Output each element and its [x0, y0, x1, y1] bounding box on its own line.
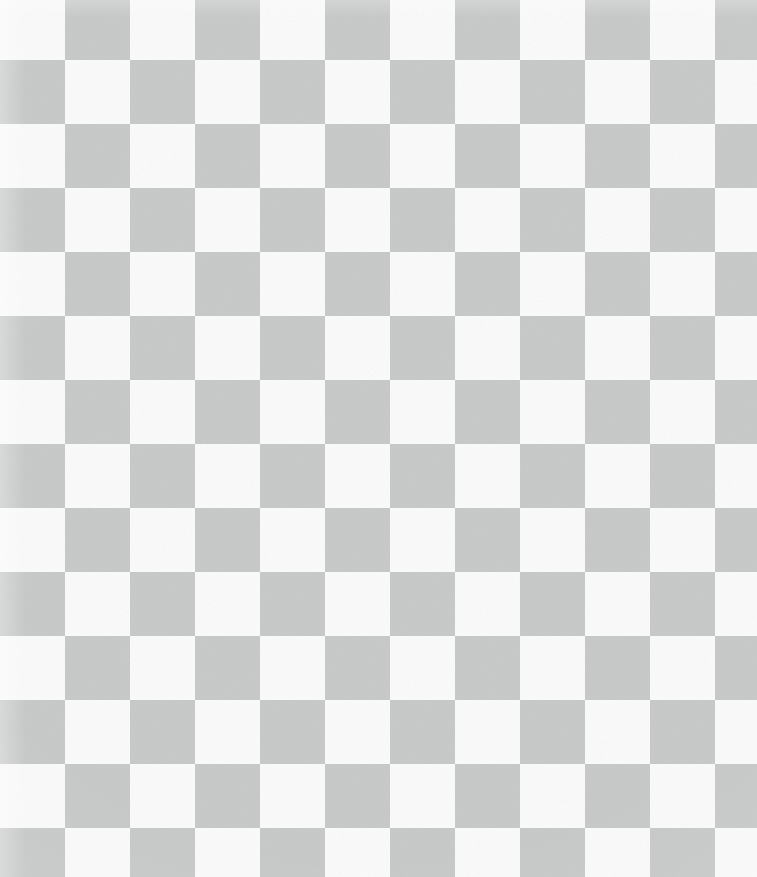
- checker-cell: [390, 444, 455, 508]
- checkerboard-canvas: [0, 0, 757, 877]
- checker-cell: [455, 380, 520, 444]
- checker-cell: [585, 508, 650, 572]
- checker-cell: [455, 636, 520, 700]
- checker-cell: [130, 700, 195, 764]
- checkerboard-pattern: [0, 0, 757, 877]
- checker-cell: [260, 188, 325, 252]
- checker-cell: [65, 252, 130, 316]
- checker-cell: [390, 828, 455, 877]
- checker-cell: [390, 188, 455, 252]
- checker-cell: [195, 636, 260, 700]
- checker-cell: [195, 252, 260, 316]
- checker-cell: [130, 572, 195, 636]
- checker-cell: [715, 380, 757, 444]
- checker-cell: [0, 60, 65, 124]
- checker-cell: [390, 316, 455, 380]
- checker-cell: [650, 444, 715, 508]
- checker-cell: [520, 60, 585, 124]
- checker-cell: [130, 188, 195, 252]
- checker-cell: [715, 508, 757, 572]
- checker-cell: [325, 0, 390, 60]
- checker-cell: [65, 380, 130, 444]
- checker-cell: [520, 444, 585, 508]
- checker-cell: [455, 764, 520, 828]
- checker-cell: [585, 764, 650, 828]
- checker-cell: [650, 572, 715, 636]
- checker-cell: [65, 636, 130, 700]
- checker-cell: [0, 572, 65, 636]
- checker-cell: [0, 828, 65, 877]
- checker-cell: [195, 380, 260, 444]
- checker-cell: [455, 124, 520, 188]
- checker-cell: [195, 0, 260, 60]
- checker-cell: [520, 700, 585, 764]
- checker-cell: [650, 700, 715, 764]
- checker-cell: [585, 636, 650, 700]
- checker-cell: [130, 316, 195, 380]
- checker-cell: [585, 124, 650, 188]
- checker-cell: [325, 636, 390, 700]
- checker-cell: [715, 252, 757, 316]
- checker-cell: [520, 828, 585, 877]
- checker-cell: [715, 764, 757, 828]
- checker-cell: [715, 0, 757, 60]
- checker-cell: [195, 764, 260, 828]
- checker-cell: [715, 124, 757, 188]
- checker-cell: [260, 444, 325, 508]
- checker-cell: [650, 188, 715, 252]
- checker-cell: [130, 60, 195, 124]
- checker-cell: [390, 572, 455, 636]
- checker-cell: [0, 316, 65, 380]
- checker-cell: [260, 700, 325, 764]
- checker-cell: [325, 380, 390, 444]
- checker-cell: [260, 828, 325, 877]
- checker-cell: [325, 124, 390, 188]
- checker-cell: [325, 252, 390, 316]
- checker-cell: [65, 124, 130, 188]
- checker-cell: [130, 444, 195, 508]
- checker-cell: [325, 764, 390, 828]
- checker-cell: [65, 0, 130, 60]
- checker-cell: [65, 764, 130, 828]
- checker-cell: [195, 508, 260, 572]
- checker-cell: [130, 828, 195, 877]
- checker-cell: [0, 700, 65, 764]
- checker-cell: [0, 188, 65, 252]
- checker-cell: [455, 508, 520, 572]
- checker-cell: [520, 572, 585, 636]
- checker-cell: [650, 828, 715, 877]
- checker-cell: [455, 0, 520, 60]
- checker-cell: [585, 252, 650, 316]
- checker-cell: [520, 188, 585, 252]
- checker-cell: [0, 444, 65, 508]
- checker-cell: [520, 316, 585, 380]
- checker-cell: [325, 508, 390, 572]
- checker-cell: [585, 0, 650, 60]
- checker-cell: [715, 636, 757, 700]
- checker-cell: [650, 60, 715, 124]
- checker-cell: [260, 572, 325, 636]
- checker-cell: [455, 252, 520, 316]
- checker-cell: [260, 316, 325, 380]
- checker-cell: [650, 316, 715, 380]
- checker-cell: [260, 60, 325, 124]
- checker-cell: [390, 700, 455, 764]
- checker-cell: [65, 508, 130, 572]
- checker-cell: [390, 60, 455, 124]
- checker-cell: [195, 124, 260, 188]
- checker-cell: [585, 380, 650, 444]
